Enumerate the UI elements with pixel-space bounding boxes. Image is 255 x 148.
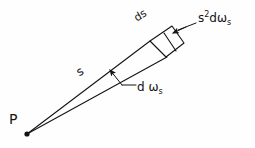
label-solid-angle: d ωs bbox=[137, 81, 163, 96]
label-projected-area: s2dωs bbox=[198, 11, 231, 27]
solid-angle-omega: ω bbox=[145, 80, 159, 94]
solid-angle-subscript: s bbox=[159, 87, 163, 96]
arrow-to-solid-angle bbox=[110, 70, 122, 85]
solid-angle-differential: d bbox=[137, 80, 145, 94]
surface-patch-divider bbox=[164, 33, 176, 51]
projected-area-omega: ω bbox=[217, 11, 227, 25]
upper-ray bbox=[27, 41, 150, 134]
label-point-p: P bbox=[9, 112, 17, 126]
projected-area-subscript: s bbox=[227, 18, 231, 27]
apex-dot bbox=[24, 131, 29, 136]
solid-angle-figure: P ds s s2dωs d ωs bbox=[0, 0, 255, 148]
projected-area-differential: d bbox=[209, 11, 217, 25]
